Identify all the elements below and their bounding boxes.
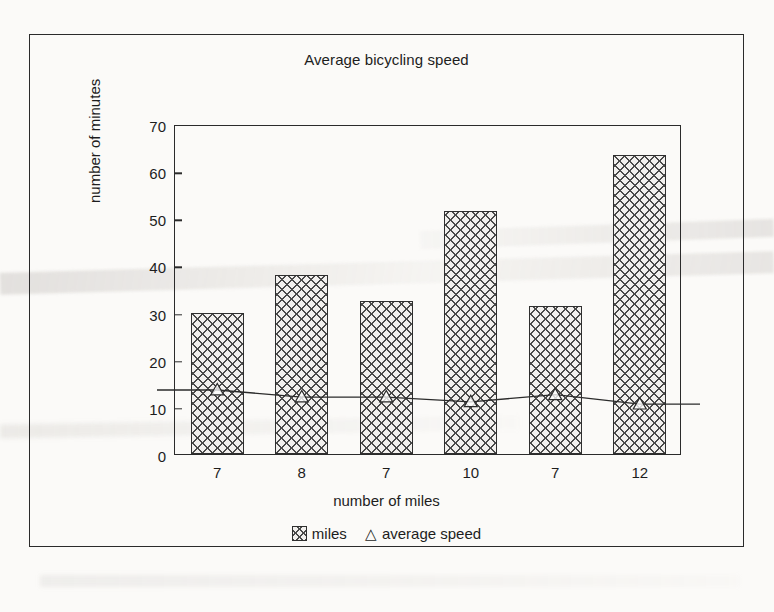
average-speed-line [157,390,700,404]
y-axis-tick-label: 0 [158,449,166,464]
legend-label-average-speed: average speed [382,525,481,542]
x-axis-tick-label: 12 [631,464,648,481]
chart-title: Average bicycling speed [30,51,743,68]
chart-legend: miles △ average speed [30,525,743,542]
y-axis-tick-label: 10 [149,401,166,416]
legend-item-miles: miles [292,525,347,542]
triangle-marker-icon: △ [365,526,377,541]
legend-label-miles: miles [312,525,347,542]
legend-item-average-speed: △ average speed [365,525,481,542]
triangle-data-point-marker [211,384,224,395]
x-axis-label: number of miles [30,492,743,509]
chart-frame: Average bicycling speed number of minute… [29,34,744,547]
y-axis-tick-label: 70 [149,119,166,134]
y-axis-tick-label: 50 [149,213,166,228]
y-axis-tick-label: 60 [149,166,166,181]
y-axis-tick-label: 20 [149,354,166,369]
x-axis-tick-label: 10 [462,464,479,481]
average-speed-line-series [175,126,682,456]
y-axis-tick-label: 40 [149,260,166,275]
triangle-data-point-marker [380,391,393,402]
x-axis-tick-label: 7 [551,464,559,481]
plot-area: 01020304050607078710712 [174,125,681,455]
triangle-data-point-marker [549,388,562,399]
y-axis-label: number of minutes [86,79,103,203]
paper-smudge-bottom [40,575,740,587]
x-axis-tick-label: 8 [298,464,306,481]
crosshatch-swatch-icon [292,526,307,541]
y-axis-tick-label: 30 [149,307,166,322]
x-axis-tick-label: 7 [213,464,221,481]
x-axis-tick-label: 7 [382,464,390,481]
